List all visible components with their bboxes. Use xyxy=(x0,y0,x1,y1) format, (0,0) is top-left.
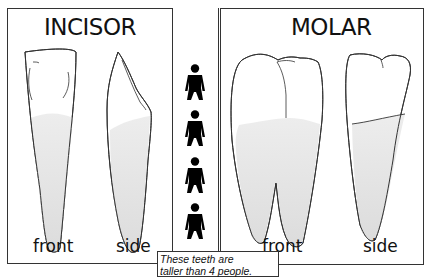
people-icons xyxy=(0,0,430,277)
person-silhouette-icon xyxy=(185,64,205,100)
caption-box: These teeth are taller than 4 people. xyxy=(157,251,279,277)
caption-line-1: These teeth are xyxy=(160,253,276,265)
person-silhouette-icon xyxy=(185,110,205,146)
person-silhouette-icon xyxy=(185,203,205,239)
person-silhouette-icon xyxy=(185,157,205,193)
caption-line-2: taller than 4 people. xyxy=(160,265,276,277)
